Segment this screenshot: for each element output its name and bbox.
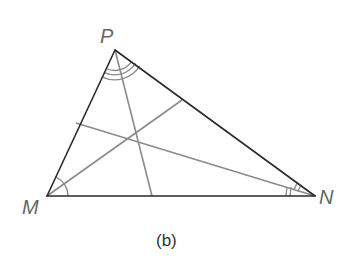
vertex-label-p: P [100, 25, 114, 47]
vertex-label-n: N [319, 186, 334, 208]
angle-arc-m [56, 177, 68, 196]
triangle-sides [47, 50, 315, 196]
triangle-figure: P M N (b) [0, 0, 353, 268]
side-pn [115, 50, 315, 196]
angle-tick-n-1 [286, 187, 287, 196]
angle-bisectors [47, 50, 315, 196]
bisector-from-n [76, 123, 315, 196]
angle-tick-n-3 [294, 183, 297, 190]
side-pm [47, 50, 115, 196]
figure-caption: (b) [156, 231, 177, 250]
angle-marks-m [56, 177, 68, 196]
vertex-label-m: M [22, 196, 39, 218]
bisector-from-m [47, 100, 182, 196]
bisector-from-p [115, 50, 152, 196]
